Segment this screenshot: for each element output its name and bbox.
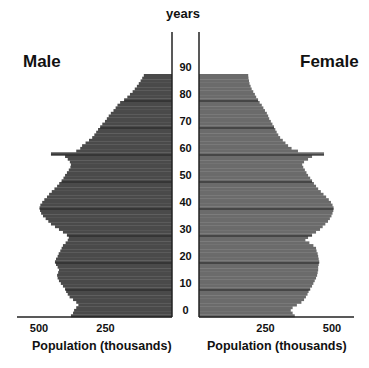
age-tick-label: 50 (179, 169, 191, 181)
male-bar (42, 201, 172, 204)
male-bars (40, 74, 172, 317)
female-bar (199, 96, 256, 99)
female-bar (199, 268, 318, 271)
age-tick-label: 10 (179, 277, 191, 289)
female-bar (199, 231, 316, 234)
female-bar (199, 309, 291, 312)
male-bar (130, 93, 172, 96)
female-bar (199, 241, 309, 244)
female-bar (199, 190, 321, 193)
female-bar (199, 217, 330, 220)
female-bar (199, 171, 306, 174)
male-bar (96, 131, 172, 134)
male-bar (139, 82, 172, 85)
male-bar (63, 285, 172, 288)
male-bar (70, 166, 172, 169)
female-bar (199, 277, 316, 280)
male-bar (57, 185, 172, 188)
female-bar (199, 274, 317, 277)
male-bar (102, 123, 172, 126)
male-bar (44, 198, 172, 201)
male-bar (111, 112, 172, 115)
male-bar (105, 120, 172, 123)
male-bar (58, 271, 172, 274)
female-bar (199, 136, 280, 139)
female-bar (199, 74, 248, 77)
female-bar (199, 150, 298, 153)
female-bar (199, 212, 333, 215)
female-bar (199, 115, 268, 118)
male-bar (73, 298, 172, 301)
male-bar (68, 293, 172, 296)
male-bar (109, 115, 172, 118)
female-bar (199, 301, 301, 304)
male-bar (142, 77, 172, 80)
male-bar (70, 160, 172, 163)
female-bar (199, 142, 285, 145)
age-tick-label: 80 (179, 88, 191, 100)
male-bar (56, 258, 172, 261)
female-bar (199, 312, 293, 315)
male-bar (137, 85, 172, 88)
female-bar (199, 109, 265, 112)
female-bar (199, 112, 267, 115)
age-tick-label: 70 (179, 115, 191, 127)
female-bar (199, 77, 248, 80)
male-bar (62, 247, 172, 250)
male-bar (49, 193, 172, 196)
female-bar (199, 177, 310, 180)
male-bar (76, 301, 172, 304)
male-bar (61, 282, 172, 285)
male-bar (71, 163, 172, 166)
age-tick-label: 30 (179, 223, 191, 235)
male-bar (54, 187, 172, 190)
male-bar (70, 295, 172, 298)
female-bar (199, 187, 318, 190)
male-bar (76, 306, 172, 309)
male-bar (59, 228, 172, 231)
male-bar (69, 169, 172, 172)
male-bar (63, 244, 172, 247)
male-bar (63, 231, 172, 234)
male-bar (144, 74, 172, 77)
female-bar (199, 106, 263, 109)
female-bar (199, 139, 283, 142)
male-bar (116, 106, 172, 109)
male-bar (43, 214, 172, 217)
female-bar (199, 158, 308, 161)
male-bar (66, 241, 172, 244)
female-bar (199, 304, 297, 307)
female-bar (199, 271, 318, 274)
male-bar (135, 88, 172, 91)
female-bar (199, 306, 293, 309)
female-bar (199, 123, 272, 126)
male-bar (107, 117, 172, 120)
female-bar (199, 266, 318, 269)
female-bar (199, 198, 329, 201)
male-bar (57, 274, 172, 277)
female-bar (199, 228, 320, 231)
male-bar (73, 312, 172, 315)
female-bar (199, 88, 252, 91)
female-bar (199, 293, 308, 296)
x-tick-labels: 250250500500 (30, 322, 341, 334)
age-tick-label: 40 (179, 196, 191, 208)
male-x-axis-label: Population (thousands) (32, 339, 172, 353)
female-x-axis-label: Population (thousands) (207, 339, 347, 353)
female-bar (199, 104, 262, 107)
male-bar (117, 104, 172, 107)
female-bar (199, 166, 303, 169)
male-bar (52, 190, 172, 193)
female-bar (199, 223, 325, 226)
female-bar (199, 244, 313, 247)
female-bar (199, 131, 277, 134)
male-bar (59, 268, 172, 271)
female-bar (199, 225, 323, 228)
male-bar (60, 250, 172, 253)
female-bar (199, 285, 312, 288)
male-bar (59, 252, 172, 255)
female-bar (199, 220, 328, 223)
female-bar (199, 82, 250, 85)
male-bar (86, 142, 172, 145)
female-bar (199, 193, 323, 196)
